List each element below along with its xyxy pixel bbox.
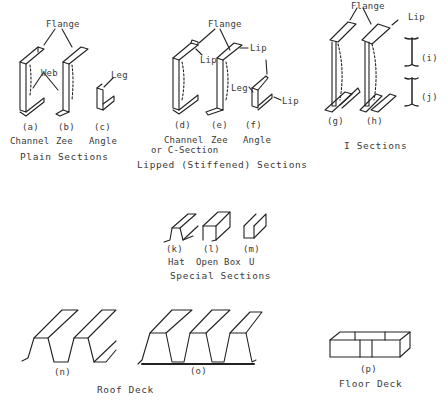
shape-c-angle (97, 84, 114, 110)
label-g: (g) (327, 116, 344, 126)
label-m: (m) (243, 244, 260, 254)
shape-h-lipped-i-section (360, 24, 396, 112)
shape-d-lipped-channel (173, 40, 198, 114)
shape-a-channel (20, 47, 44, 116)
label-n: (n) (54, 367, 71, 377)
caption-lipped-sections: Lipped (Stiffened) Sections (137, 159, 308, 170)
name-m: U (249, 257, 255, 267)
label-j: (j) (421, 92, 438, 102)
shape-p-floor-deck (330, 332, 410, 357)
label-l: (l) (203, 244, 220, 254)
label-b: (b) (58, 122, 75, 132)
name-a: Channel (10, 136, 49, 146)
caption-i-sections: I Sections (344, 140, 407, 151)
name-l: Open Box (196, 257, 241, 267)
name-k: Hat (168, 257, 185, 267)
callout-lip-i: Lip (408, 12, 425, 22)
label-f: (f) (245, 120, 262, 130)
sections-drawing (0, 0, 448, 401)
label-a: (a) (22, 122, 39, 132)
shape-b-zee (56, 47, 88, 116)
shape-i-j-sections (405, 38, 418, 106)
caption-roof-deck: Roof Deck (97, 384, 154, 395)
caption-special-sections: Special Sections (170, 270, 271, 281)
callout-flange-i: Flange (351, 1, 385, 11)
label-o: (o) (190, 366, 207, 376)
shape-g-i-section (325, 22, 360, 112)
callout-web: Web (41, 68, 58, 78)
callout-lip-2: Lip (250, 43, 267, 53)
name-b: Zee (56, 136, 73, 146)
label-i: (i) (421, 53, 438, 63)
caption-floor-deck: Floor Deck (339, 378, 402, 389)
callout-leg: Leg (111, 70, 128, 80)
callout-flange-lipped: Flange (208, 19, 242, 29)
shape-m-u (244, 214, 266, 238)
label-d: (d) (174, 120, 191, 130)
shape-f-lipped-angle (252, 76, 272, 110)
callout-leg-lipped: Leg (231, 83, 248, 93)
label-k: (k) (166, 244, 183, 254)
shape-o-roof-deck (138, 310, 262, 364)
name-d-2: or C-Section (151, 145, 218, 155)
name-f: Angle (243, 135, 271, 145)
shape-l-open-box (203, 212, 230, 241)
label-c: (c) (94, 122, 111, 132)
name-c: Angle (89, 136, 117, 146)
callout-lip-1: Lip (200, 55, 217, 65)
shape-n-roof-deck (22, 310, 116, 362)
callout-lip-3: Lip (282, 96, 299, 106)
label-h: (h) (366, 116, 383, 126)
name-e: Zee (211, 135, 228, 145)
caption-plain-sections: Plain Sections (20, 151, 108, 162)
label-e: (e) (211, 120, 228, 130)
shape-e-lipped-zee (206, 43, 242, 115)
callout-flange: Flange (46, 19, 80, 29)
label-p: (p) (360, 364, 377, 374)
shape-k-hat (164, 214, 198, 242)
name-d: Channel (164, 135, 203, 145)
